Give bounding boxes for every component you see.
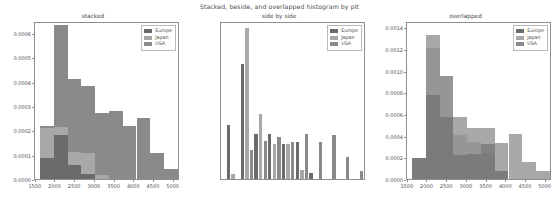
- histogram-bar: [440, 117, 454, 179]
- legend-overlapped: EuropeJapanUSA: [513, 25, 548, 51]
- legend-item[interactable]: Europe: [144, 28, 172, 34]
- histogram-bar: [467, 154, 481, 179]
- histogram-bar: [81, 174, 95, 179]
- legend-label: Japan: [341, 35, 354, 41]
- x-axis-tick-mark: [35, 180, 36, 182]
- legend-swatch-icon: [516, 42, 524, 46]
- histogram-bar: [150, 153, 164, 179]
- subplot-title-overlapped: overlapped: [372, 13, 559, 19]
- histogram-bar: [453, 155, 467, 179]
- y-axis-tick-mark: [32, 83, 34, 84]
- histogram-bar: [227, 125, 230, 179]
- histogram-bar: [68, 79, 82, 151]
- legend-swatch-icon: [330, 36, 338, 40]
- legend-item[interactable]: USA: [144, 41, 172, 47]
- histogram-bar: [346, 157, 349, 180]
- histogram-bar: [332, 135, 335, 179]
- x-axis-tick-mark: [74, 180, 75, 182]
- histogram-bar: [300, 170, 303, 179]
- legend-label: USA: [155, 41, 165, 47]
- histogram-bar: [319, 142, 322, 179]
- legend-item[interactable]: USA: [516, 41, 544, 47]
- histogram-bar: [250, 150, 253, 179]
- legend-swatch-icon: [144, 36, 152, 40]
- histogram-bar: [54, 127, 68, 134]
- histogram-bar: [277, 137, 280, 179]
- histogram-bar: [231, 174, 234, 179]
- legend-label: USA: [527, 41, 537, 47]
- histogram-bar: [509, 134, 523, 179]
- legend-item[interactable]: Europe: [330, 28, 358, 34]
- histogram-bar: [245, 28, 248, 180]
- legend-swatch-icon: [144, 42, 152, 46]
- histogram-bar: [81, 86, 95, 153]
- y-axis-tick-label: 0.0006: [1, 31, 31, 37]
- histogram-bar: [259, 114, 262, 179]
- histogram-bar: [305, 134, 308, 179]
- histogram-bar: [95, 175, 109, 179]
- histogram-bar: [109, 111, 123, 179]
- y-axis-tick-label: 0.0004: [1, 80, 31, 86]
- legend-item[interactable]: Japan: [330, 35, 358, 41]
- histogram-bar: [291, 142, 294, 179]
- y-axis-tick-mark: [32, 107, 34, 108]
- subplot-stacked: stacked EuropeJapanUSA 0.00000.00010.000…: [0, 0, 186, 205]
- subplot-title-stacked: stacked: [0, 13, 186, 19]
- y-axis-tick-mark: [32, 58, 34, 59]
- x-axis-tick-mark: [133, 180, 134, 182]
- histogram-bar: [481, 144, 495, 179]
- y-axis-tick-mark: [32, 156, 34, 157]
- legend-label: Europe: [155, 28, 172, 34]
- histogram-bar: [40, 126, 54, 128]
- histogram-bar: [40, 158, 54, 179]
- y-axis-tick-mark: [32, 34, 34, 35]
- legend-item[interactable]: USA: [330, 41, 358, 47]
- legend-label: Japan: [155, 35, 168, 41]
- legend-side-by-side: EuropeJapanUSA: [327, 25, 362, 51]
- histogram-bar: [536, 171, 550, 179]
- legend-label: Japan: [527, 35, 540, 41]
- histogram-bar: [426, 95, 440, 179]
- histogram-bar: [495, 171, 509, 179]
- y-axis-tick-label: 0.0003: [1, 104, 31, 110]
- y-axis-tick-label: 0.0005: [1, 55, 31, 61]
- histogram-bar: [412, 158, 426, 179]
- histogram-bar: [95, 113, 109, 175]
- histogram-bar: [522, 162, 536, 179]
- subplot-title-side-by-side: side by side: [186, 13, 372, 19]
- histogram-bar: [309, 173, 312, 179]
- histogram-bar: [360, 171, 363, 179]
- histogram-bar: [164, 169, 178, 179]
- legend-label: USA: [341, 41, 351, 47]
- histogram-bar: [54, 135, 68, 179]
- histogram-bar: [123, 126, 137, 179]
- histogram-bar: [268, 134, 271, 179]
- histogram-bar: [254, 134, 257, 179]
- subplot-side-by-side: side by side EuropeJapanUSA 0.00000.0002…: [186, 0, 372, 205]
- histogram-bar: [296, 142, 299, 179]
- legend-swatch-icon: [516, 36, 524, 40]
- legend-item[interactable]: Europe: [516, 28, 544, 34]
- x-axis-tick-mark: [153, 180, 154, 182]
- legend-swatch-icon: [144, 29, 152, 33]
- x-axis-tick-label: 4500: [147, 183, 160, 189]
- legend-stacked: EuropeJapanUSA: [141, 25, 176, 51]
- matplotlib-figure: Stacked, beside, and overlapped histogra…: [0, 0, 559, 205]
- legend-item[interactable]: Japan: [516, 35, 544, 41]
- histogram-bar: [241, 64, 244, 179]
- histogram-bar: [68, 152, 82, 165]
- x-axis-tick-mark: [173, 180, 174, 182]
- y-axis-tick-mark: [32, 180, 34, 181]
- y-axis-tick-label: 0.0000: [1, 177, 31, 183]
- x-axis-tick-label: 5000: [166, 183, 179, 189]
- histogram-bar: [273, 144, 276, 179]
- histogram-bar: [286, 144, 289, 179]
- y-axis-tick-label: 0.0002: [1, 128, 31, 134]
- legend-item[interactable]: Japan: [144, 35, 172, 41]
- x-axis-tick-mark: [94, 180, 95, 182]
- histogram-bar: [68, 165, 82, 179]
- histogram-bar: [81, 153, 95, 174]
- x-axis-tick-label: 2000: [48, 183, 61, 189]
- axes-stacked: EuropeJapanUSA: [34, 22, 179, 180]
- legend-swatch-icon: [330, 42, 338, 46]
